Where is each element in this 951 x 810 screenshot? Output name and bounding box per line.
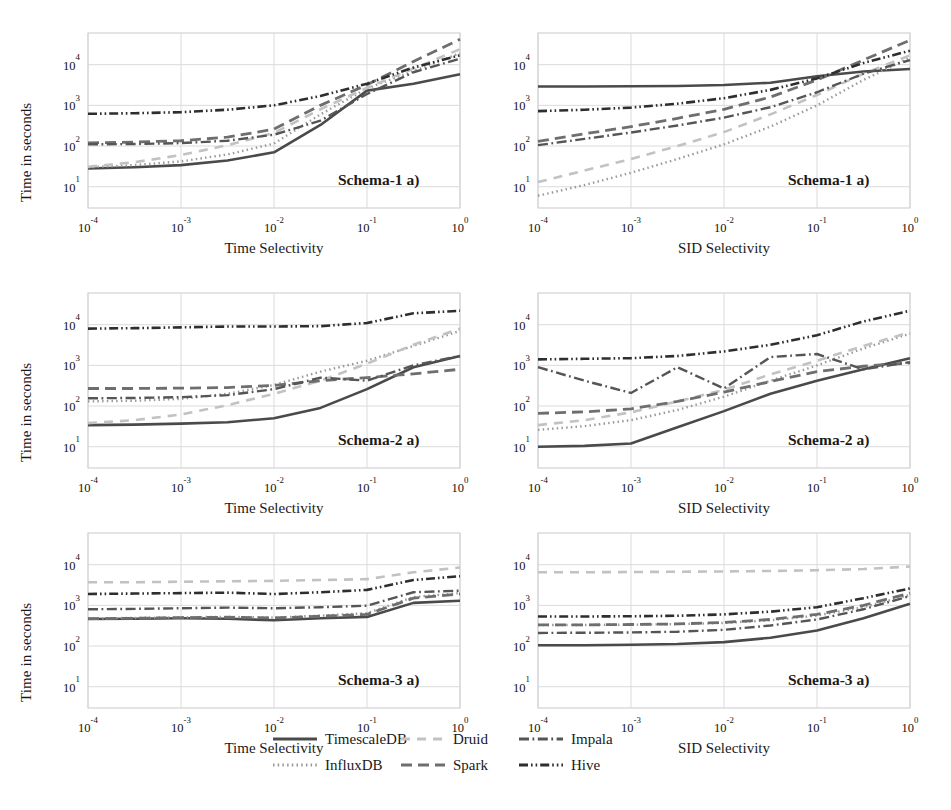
svg-text:10-3: 10-3 xyxy=(621,215,641,236)
plot-area-schema3-time: 10-410-310-210-1100104103102101 xyxy=(30,521,476,756)
svg-text:10-2: 10-2 xyxy=(264,475,284,496)
svg-text:102: 102 xyxy=(63,634,80,655)
svg-text:10-4: 10-4 xyxy=(78,715,98,736)
svg-text:102: 102 xyxy=(513,634,530,655)
legend-item-spark[interactable]: Spark xyxy=(400,757,518,774)
y-axis-label: Time in seconds xyxy=(18,103,35,202)
svg-text:10-1: 10-1 xyxy=(807,215,827,236)
svg-text:100: 100 xyxy=(902,215,920,236)
svg-text:10-3: 10-3 xyxy=(171,475,191,496)
legend-label-spark: Spark xyxy=(453,757,488,774)
svg-text:10-3: 10-3 xyxy=(621,475,641,496)
legend-item-timescaledb[interactable]: TimescaleDB xyxy=(272,731,400,748)
svg-text:10-4: 10-4 xyxy=(528,475,548,496)
svg-text:103: 103 xyxy=(63,93,81,114)
legend-item-impala[interactable]: Impala xyxy=(518,731,626,748)
plot-area-schema2-sid: 10-410-310-210-1100104103102101 xyxy=(480,281,926,516)
svg-text:103: 103 xyxy=(63,353,81,374)
legend-item-influxdb[interactable]: InfluxDB xyxy=(272,757,400,774)
svg-text:101: 101 xyxy=(513,434,530,455)
svg-text:10-4: 10-4 xyxy=(78,215,98,236)
svg-text:10-2: 10-2 xyxy=(714,715,734,736)
svg-text:10-2: 10-2 xyxy=(264,215,284,236)
svg-text:10-3: 10-3 xyxy=(171,215,191,236)
svg-text:100: 100 xyxy=(902,715,920,736)
svg-text:10-1: 10-1 xyxy=(357,215,377,236)
svg-text:100: 100 xyxy=(452,215,470,236)
legend-swatch-timescaledb xyxy=(272,733,318,745)
svg-text:100: 100 xyxy=(902,475,920,496)
panel-tag-schema2-time: Schema-2 a) xyxy=(338,431,419,449)
plot-area-schema1-sid: 10-410-310-210-1100104103102101 xyxy=(480,21,926,256)
svg-text:100: 100 xyxy=(452,475,470,496)
x-axis-label-schema1-sid: SID Selectivity xyxy=(538,240,910,257)
x-axis-label-schema2-sid: SID Selectivity xyxy=(538,500,910,517)
plot-area-schema3-sid: 10-410-310-210-1100104103102101 xyxy=(480,521,926,756)
legend-item-druid[interactable]: Druid xyxy=(400,731,518,748)
legend-label-influxdb: InfluxDB xyxy=(325,757,383,774)
svg-text:103: 103 xyxy=(63,593,81,614)
svg-text:103: 103 xyxy=(513,593,531,614)
svg-text:10-2: 10-2 xyxy=(714,475,734,496)
svg-text:104: 104 xyxy=(63,552,81,573)
panel-tag-schema3-time: Schema-3 a) xyxy=(338,671,419,689)
svg-text:104: 104 xyxy=(63,52,81,73)
svg-text:10-2: 10-2 xyxy=(714,215,734,236)
svg-text:101: 101 xyxy=(63,434,80,455)
panel-tag-schema1-sid: Schema-1 a) xyxy=(788,171,869,189)
legend-label-hive: Hive xyxy=(571,757,600,774)
plot-area-schema2-time: 10-410-310-210-1100104103102101 xyxy=(30,281,476,516)
svg-text:10-1: 10-1 xyxy=(807,715,827,736)
svg-text:101: 101 xyxy=(63,674,80,695)
svg-text:102: 102 xyxy=(63,134,80,155)
panel-tag-schema2-sid: Schema-2 a) xyxy=(788,431,869,449)
y-axis-label: Time in seconds xyxy=(18,363,35,462)
plot-area-schema1-time: 10-410-310-210-1100104103102101 xyxy=(30,21,476,256)
svg-text:103: 103 xyxy=(513,93,531,114)
svg-text:10-4: 10-4 xyxy=(78,475,98,496)
panel-tag-schema1-time: Schema-1 a) xyxy=(338,171,419,189)
plot-panel-schema3-time: 10-410-310-210-1100104103102101 xyxy=(30,521,476,756)
legend-item-hive[interactable]: Hive xyxy=(518,757,626,774)
plot-panel-schema2-sid: 10-410-310-210-1100104103102101 xyxy=(480,281,926,516)
panel-tag-schema3-sid: Schema-3 a) xyxy=(788,671,869,689)
figure-canvas: 10-410-310-210-1100104103102101Time in s… xyxy=(0,0,951,810)
legend-label-timescaledb: TimescaleDB xyxy=(325,731,407,748)
legend-swatch-hive xyxy=(518,759,564,771)
svg-text:102: 102 xyxy=(513,134,530,155)
legend-swatch-impala xyxy=(518,733,564,745)
svg-text:10-4: 10-4 xyxy=(528,215,548,236)
plot-panel-schema2-time: 10-410-310-210-1100104103102101 xyxy=(30,281,476,516)
legend-swatch-influxdb xyxy=(272,759,318,771)
svg-text:102: 102 xyxy=(513,394,530,415)
legend-label-druid: Druid xyxy=(453,731,488,748)
x-axis-label-schema1-time: Time Selectivity xyxy=(88,240,460,257)
svg-text:101: 101 xyxy=(513,174,530,195)
plot-panel-schema1-time: 10-410-310-210-1100104103102101 xyxy=(30,21,476,256)
y-axis-label: Time in seconds xyxy=(18,603,35,702)
plot-panel-schema1-sid: 10-410-310-210-1100104103102101 xyxy=(480,21,926,256)
x-axis-label-schema2-time: Time Selectivity xyxy=(88,500,460,517)
legend-swatch-spark xyxy=(400,759,446,771)
plot-panel-schema3-sid: 10-410-310-210-1100104103102101 xyxy=(480,521,926,756)
svg-text:104: 104 xyxy=(63,312,81,333)
legend-label-impala: Impala xyxy=(571,731,613,748)
legend-swatch-druid xyxy=(400,733,446,745)
svg-text:101: 101 xyxy=(513,674,530,695)
svg-text:101: 101 xyxy=(63,174,80,195)
chart-legend: TimescaleDBDruidImpalaInfluxDBSparkHive xyxy=(272,726,692,780)
svg-text:102: 102 xyxy=(63,394,80,415)
svg-text:10-1: 10-1 xyxy=(807,475,827,496)
svg-text:10-3: 10-3 xyxy=(171,715,191,736)
svg-text:104: 104 xyxy=(513,552,531,573)
svg-text:103: 103 xyxy=(513,353,531,374)
svg-text:10-1: 10-1 xyxy=(357,475,377,496)
svg-text:104: 104 xyxy=(513,312,531,333)
svg-text:104: 104 xyxy=(513,52,531,73)
